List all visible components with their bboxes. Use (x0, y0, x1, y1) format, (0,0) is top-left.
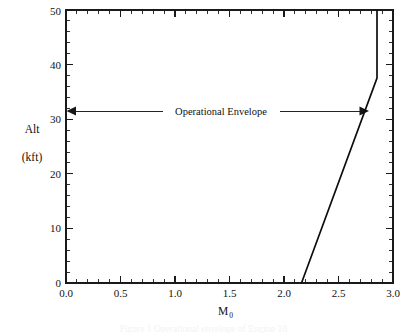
x-tick-label-2-5: 2.5 (332, 287, 346, 299)
y-axis-title-line2: (kft) (22, 151, 43, 164)
y-tick-label-40: 40 (50, 59, 62, 71)
x-axis-ticks (66, 276, 393, 283)
annotation-label: Operational Envelope (175, 106, 267, 117)
figure-container: 0 10 20 30 40 50 0.0 0.5 1.0 1.5 2.0 2.5… (0, 0, 409, 333)
y-tick-labels: 0 10 20 30 40 50 (50, 5, 62, 290)
x-axis-title: M 0 (218, 305, 233, 320)
x-tick-label-3-0: 3.0 (386, 287, 400, 299)
y-tick-label-10: 10 (50, 222, 62, 234)
envelope-boundary-line (302, 10, 378, 283)
operational-envelope-annotation: Operational Envelope (67, 106, 370, 117)
x-tick-label-0-0: 0.0 (59, 287, 73, 299)
right-axis-ticks (386, 21, 393, 272)
x-axis-title-subscript: 0 (229, 311, 233, 320)
x-tick-label-2-0: 2.0 (277, 287, 291, 299)
x-tick-label-0-5: 0.5 (114, 287, 128, 299)
plot-frame (66, 10, 393, 283)
figure-caption: Figure 1 Operational envelope of Engine … (0, 324, 409, 333)
x-tick-label-1-5: 1.5 (223, 287, 237, 299)
top-axis-ticks (77, 10, 382, 17)
y-tick-label-20: 20 (50, 168, 62, 180)
x-tick-labels: 0.0 0.5 1.0 1.5 2.0 2.5 3.0 (59, 287, 400, 299)
y-axis-title-line1: Alt (25, 123, 41, 135)
y-tick-label-30: 30 (50, 113, 62, 125)
operational-envelope-chart: 0 10 20 30 40 50 0.0 0.5 1.0 1.5 2.0 2.5… (0, 0, 409, 333)
y-axis-title: Alt (kft) (22, 123, 43, 164)
y-axis-ticks (66, 10, 73, 283)
x-axis-title-main: M (218, 305, 228, 317)
y-tick-label-50: 50 (50, 5, 62, 17)
x-tick-label-1-0: 1.0 (168, 287, 182, 299)
envelope-curve (302, 10, 378, 283)
